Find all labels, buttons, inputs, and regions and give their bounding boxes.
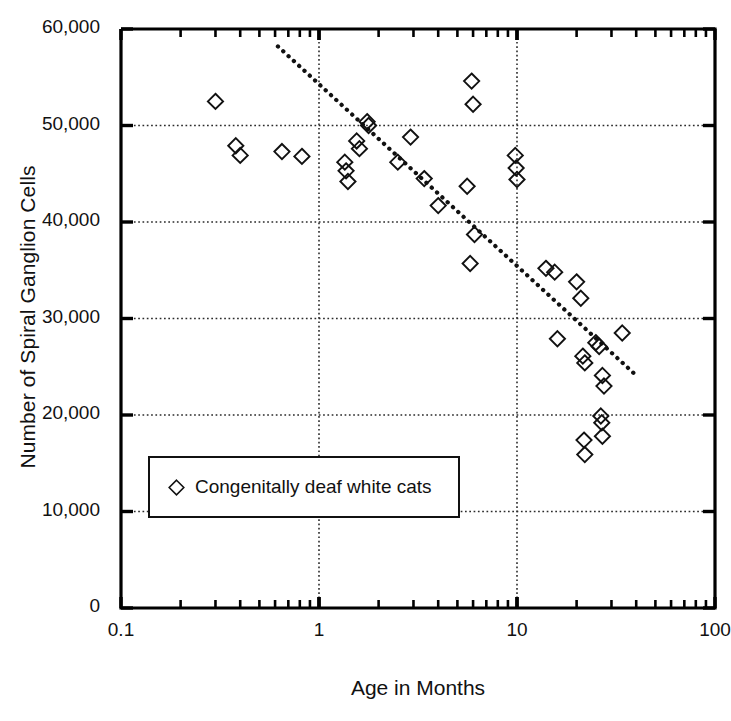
- data-point: [615, 325, 630, 340]
- data-point: [349, 133, 364, 148]
- data-point: [208, 94, 223, 109]
- data-point: [467, 227, 482, 242]
- data-point: [464, 74, 479, 89]
- data-point: [463, 256, 478, 271]
- legend-entry-label: Congenitally deaf white cats: [195, 476, 432, 498]
- data-point: [294, 149, 309, 164]
- data-point: [352, 141, 367, 156]
- data-point: [417, 171, 432, 186]
- data-point: [573, 291, 588, 306]
- legend-diamond-icon: [168, 479, 185, 496]
- data-point: [550, 331, 565, 346]
- data-points: [208, 74, 630, 463]
- data-point: [403, 129, 418, 144]
- chart-legend: Congenitally deaf white cats: [148, 456, 460, 518]
- data-point: [274, 144, 289, 159]
- trend-line: [278, 46, 638, 377]
- gridlines: [121, 29, 715, 608]
- data-point: [577, 447, 592, 462]
- data-point: [390, 155, 405, 170]
- data-point: [465, 97, 480, 112]
- data-point: [460, 179, 475, 194]
- data-point: [569, 274, 584, 289]
- data-point: [431, 198, 446, 213]
- data-point: [576, 432, 591, 447]
